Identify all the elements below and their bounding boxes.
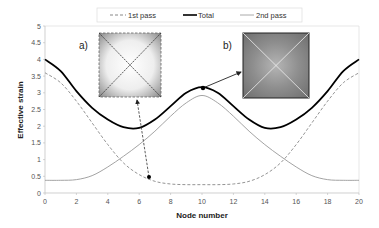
- y-tick-label: 4.5: [31, 39, 41, 46]
- y-tick-label: 0.5: [31, 173, 41, 180]
- inset-b-label: b): [223, 40, 232, 51]
- x-tick-label: 6: [137, 198, 141, 205]
- series-total: [45, 59, 359, 128]
- x-tick-label: 16: [292, 198, 300, 205]
- inset-a-label: a): [79, 40, 88, 51]
- x-tick-label: 8: [169, 198, 173, 205]
- y-tick-labels: 00.511.522.533.544.55: [31, 23, 45, 197]
- y-tick-label: 4: [37, 56, 41, 63]
- x-tick-label: 2: [74, 198, 78, 205]
- y-axis-label: Effective strain: [16, 81, 25, 138]
- y-tick-label: 1.5: [31, 139, 41, 146]
- x-tick-label: 20: [355, 198, 363, 205]
- strain-chart: 1st pass Total 2nd pass 00.511.522.533.5…: [0, 0, 379, 228]
- x-tick-label: 12: [230, 198, 238, 205]
- point-b: [201, 86, 205, 90]
- y-tick-label: 3: [37, 89, 41, 96]
- inset-b: b): [223, 33, 309, 98]
- x-tick-label: 0: [43, 198, 47, 205]
- legend-label-2nd-pass: 2nd pass: [256, 11, 287, 20]
- axes: [45, 26, 359, 193]
- y-tick-label: 0: [37, 190, 41, 197]
- arrow-b: [203, 72, 241, 88]
- x-tick-labels: 02468101214161820: [43, 193, 363, 205]
- legend-label-1st-pass: 1st pass: [128, 11, 156, 20]
- x-tick-label: 10: [198, 198, 206, 205]
- x-tick-label: 18: [324, 198, 332, 205]
- x-tick-label: 4: [106, 198, 110, 205]
- y-tick-label: 2.5: [31, 106, 41, 113]
- point-a: [147, 175, 151, 179]
- inset-a: a): [79, 33, 161, 97]
- x-tick-label: 14: [261, 198, 269, 205]
- x-axis-label: Node number: [176, 211, 228, 220]
- legend: 1st pass Total 2nd pass: [97, 8, 302, 22]
- series-lines: [45, 59, 359, 184]
- y-tick-label: 2: [37, 123, 41, 130]
- y-tick-label: 5: [37, 23, 41, 30]
- legend-label-total: Total: [198, 11, 214, 20]
- y-tick-label: 3.5: [31, 73, 41, 80]
- y-tick-label: 1: [37, 156, 41, 163]
